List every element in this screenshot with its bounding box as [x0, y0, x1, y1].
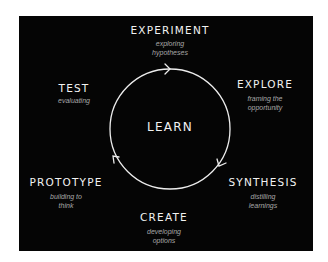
- stage-create: CREATE developing options: [140, 211, 188, 245]
- stage-subtitle: building to think: [29, 192, 102, 210]
- stage-explore: EXPLORE framing the opportunity: [237, 78, 293, 112]
- subtitle-line: exploring: [130, 39, 209, 48]
- subtitle-line: distilling: [228, 192, 297, 201]
- stage-title: EXPERIMENT: [130, 24, 209, 36]
- stage-subtitle: framing the opportunity: [237, 94, 293, 112]
- stage-subtitle: distilling learnings: [228, 192, 297, 210]
- subtitle-line: building to: [29, 192, 102, 201]
- stage-subtitle: exploring hypotheses: [130, 39, 209, 57]
- subtitle-line: options: [140, 236, 188, 245]
- stage-title: EXPLORE: [237, 78, 293, 90]
- stage-subtitle: evaluating: [58, 96, 90, 105]
- stage-test: TEST evaluating: [58, 82, 90, 105]
- stage-prototype: PROTOTYPE building to think: [29, 176, 102, 210]
- subtitle-line: evaluating: [58, 96, 90, 105]
- stage-subtitle: developing options: [140, 227, 188, 245]
- subtitle-line: developing: [140, 227, 188, 236]
- stage-title: SYNTHESIS: [228, 176, 297, 188]
- stage-title: TEST: [58, 82, 90, 94]
- subtitle-line: think: [29, 201, 102, 210]
- subtitle-line: learnings: [228, 201, 297, 210]
- center-label-learn: LEARN: [147, 120, 193, 134]
- stage-title: PROTOTYPE: [29, 176, 102, 188]
- subtitle-line: opportunity: [237, 103, 293, 112]
- stage-title: CREATE: [140, 211, 188, 223]
- stage-synthesis: SYNTHESIS distilling learnings: [228, 176, 297, 210]
- subtitle-line: framing the: [237, 94, 293, 103]
- subtitle-line: hypotheses: [130, 48, 209, 57]
- stage-experiment: EXPERIMENT exploring hypotheses: [130, 24, 209, 57]
